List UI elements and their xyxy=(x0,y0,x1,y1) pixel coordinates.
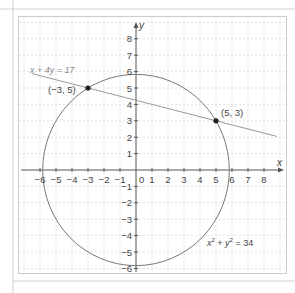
x-tick-label: 2 xyxy=(165,174,170,185)
x-axis-label: x xyxy=(276,157,283,168)
figure: −6−5−4−3−2−112345678−6−5−4−3−2−112345678… xyxy=(0,0,295,293)
y-tick-label: 8 xyxy=(127,33,132,44)
point-a-label: (−3, 5) xyxy=(48,84,76,95)
y-tick-label: 1 xyxy=(127,148,132,159)
origin-label: 0 xyxy=(139,174,144,185)
x-tick-label: −3 xyxy=(83,174,94,185)
x-tick-label: 6 xyxy=(229,174,234,185)
x-tick-label: 4 xyxy=(197,174,202,185)
y-tick-label: 3 xyxy=(127,115,132,126)
x-tick-label: −6 xyxy=(35,174,46,185)
x-tick-label: 8 xyxy=(261,174,266,185)
x-tick-label: −5 xyxy=(51,174,62,185)
y-tick-label: 4 xyxy=(127,99,132,110)
line-equation-label: x + 4y = 17 xyxy=(29,65,76,75)
intersection-point xyxy=(213,118,218,123)
x-tick-label: 3 xyxy=(181,174,186,185)
y-tick-label: 2 xyxy=(127,132,132,143)
y-axis-label: y xyxy=(138,20,145,31)
y-tick-label: −6 xyxy=(121,263,132,274)
y-tick-label: 7 xyxy=(127,50,132,61)
y-tick-label: 6 xyxy=(127,66,132,77)
y-tick-label: −1 xyxy=(121,181,132,192)
x-tick-label: −2 xyxy=(99,174,110,185)
y-tick-label: −2 xyxy=(121,197,132,208)
x-tick-label: −4 xyxy=(67,174,78,185)
intersection-point xyxy=(85,85,90,90)
chart-svg: −6−5−4−3−2−112345678−6−5−4−3−2−112345678… xyxy=(0,0,295,293)
x-tick-label: 1 xyxy=(149,174,154,185)
point-b-label: (5, 3) xyxy=(221,107,243,118)
x-tick-label: 5 xyxy=(213,174,218,185)
y-tick-label: −4 xyxy=(121,230,132,241)
y-tick-label: −5 xyxy=(121,247,132,258)
y-tick-label: −3 xyxy=(121,214,132,225)
x-tick-label: 7 xyxy=(245,174,250,185)
y-tick-label: 5 xyxy=(127,83,132,94)
